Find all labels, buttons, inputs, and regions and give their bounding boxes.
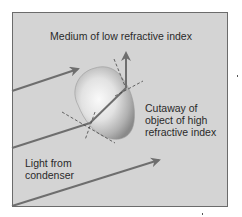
- object-label-line-1: Cutaway of: [145, 102, 216, 114]
- medium-label: Medium of low refractive index: [0, 30, 242, 42]
- stray-mark: [237, 75, 238, 77]
- object-label: Cutaway of object of high refractive ind…: [145, 102, 216, 138]
- stray-mark: [202, 213, 203, 215]
- incident-ray-upper: [12, 69, 78, 91]
- incident-ray-through-object: [12, 123, 90, 148]
- diagram-stage: Medium of low refractive index Cutaway o…: [0, 0, 242, 217]
- light-source-label: Light from condenser: [25, 157, 74, 181]
- object-label-line-3: refractive index: [145, 126, 216, 138]
- light-label-line-1: Light from: [25, 157, 74, 169]
- object-label-line-2: object of high: [145, 114, 216, 126]
- light-label-line-2: condenser: [25, 169, 74, 181]
